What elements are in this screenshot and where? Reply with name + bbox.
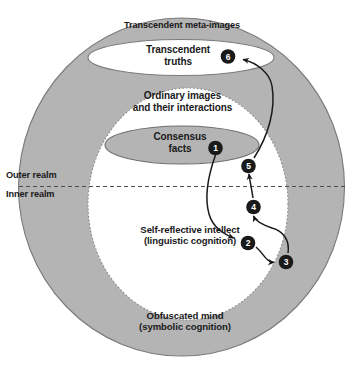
marker-2-label: 2 bbox=[246, 238, 251, 248]
marker-1-label: 1 bbox=[213, 143, 218, 153]
concentric-realms-diagram: 1 2 3 4 5 6 bbox=[0, 0, 362, 373]
marker-3[interactable]: 3 bbox=[279, 255, 294, 270]
marker-6[interactable]: 6 bbox=[221, 49, 236, 64]
marker-3-label: 3 bbox=[284, 257, 289, 267]
marker-2[interactable]: 2 bbox=[241, 236, 256, 251]
marker-4[interactable]: 4 bbox=[246, 200, 261, 215]
marker-5-label: 5 bbox=[246, 161, 251, 171]
ellipse-consensus-facts bbox=[105, 126, 259, 164]
marker-5[interactable]: 5 bbox=[241, 159, 256, 174]
marker-1[interactable]: 1 bbox=[208, 141, 223, 156]
marker-6-label: 6 bbox=[226, 52, 231, 62]
ellipse-transcendent-truths bbox=[88, 40, 274, 76]
diagram-canvas: 1 2 3 4 5 6 Transcendent meta-images Tra… bbox=[0, 0, 362, 373]
marker-4-label: 4 bbox=[251, 202, 256, 212]
